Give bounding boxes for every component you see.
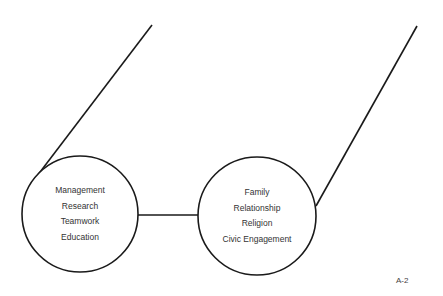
right-circle-labels: Family Relationship Religion Civic Engag…	[204, 180, 310, 252]
right-item-civic-engagement: Civic Engagement	[223, 232, 292, 248]
diagram-canvas: Management Research Teamwork Education F…	[0, 0, 443, 296]
right-item-family: Family	[244, 185, 269, 201]
left-item-management: Management	[55, 183, 105, 199]
left-circle-labels: Management Research Teamwork Education	[30, 178, 130, 250]
left-item-education: Education	[61, 230, 99, 246]
page-label: A-2	[396, 276, 408, 285]
right-item-relationship: Relationship	[234, 201, 281, 217]
right-diagonal-line	[316, 26, 417, 206]
left-item-research: Research	[62, 199, 98, 215]
left-item-teamwork: Teamwork	[61, 214, 100, 230]
right-item-religion: Religion	[242, 216, 273, 232]
